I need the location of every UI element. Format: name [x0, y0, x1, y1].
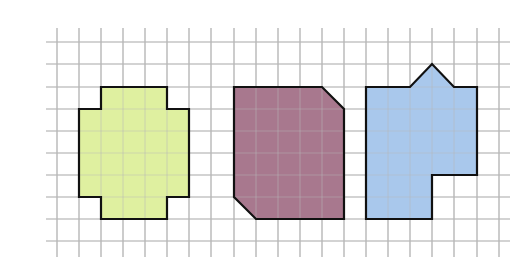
grid-diagram [0, 0, 532, 280]
grid-canvas [0, 0, 532, 280]
